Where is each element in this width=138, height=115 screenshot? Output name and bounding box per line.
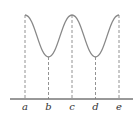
label-b: b: [45, 101, 51, 112]
guide-lines: [25, 15, 119, 99]
wave-diagram: a b c d e: [0, 0, 138, 115]
label-d: d: [92, 101, 98, 112]
label-a: a: [22, 101, 28, 112]
label-c: c: [69, 101, 75, 112]
label-e: e: [116, 101, 122, 112]
